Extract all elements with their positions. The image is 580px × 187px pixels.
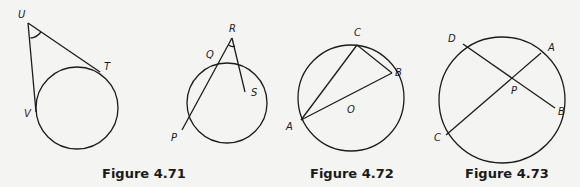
circle [298,45,404,151]
label-p: P [511,85,518,96]
label-u: U [18,9,26,20]
label-c: C [434,132,441,143]
circle [36,67,118,149]
label-v: V [24,108,32,119]
label-o: O [347,104,355,115]
label-s: S [251,87,258,98]
circle [439,37,565,163]
label-c: C [354,27,361,38]
label-r: R [229,23,236,34]
label-a: A [285,121,293,132]
caption-4-72: Figure 4.72 [310,166,394,181]
label-d: D [448,33,456,44]
figure-4-72: C B A O Figure 4.72 [285,27,404,181]
angle-u-arc [31,32,42,38]
label-b: B [395,67,402,78]
figure-4-71: U T V Figure 4.71 [18,9,186,181]
tangent-ut [28,23,100,72]
figure-4-73: D A B C P Figure 4.73 [434,33,565,181]
label-b: B [558,106,565,117]
label-q: Q [206,49,214,60]
caption-4-73: Figure 4.73 [465,166,549,181]
label-t: T [104,61,111,72]
figures-canvas: U T V Figure 4.71 R Q S P C B A O Figure… [0,0,580,187]
label-a: A [547,42,555,53]
circle [187,63,267,143]
label-p: P [171,132,178,143]
figure-secant-tangent: R Q S P [171,23,267,143]
caption-4-71: Figure 4.71 [102,166,186,181]
